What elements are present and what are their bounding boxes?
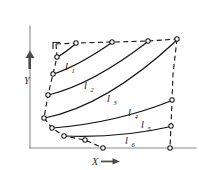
node-marker [170, 98, 174, 102]
figure-container: Y X [0, 0, 199, 170]
node-marker [42, 116, 46, 120]
node-marker [74, 41, 78, 45]
node-marker [146, 39, 150, 43]
curve-label-l6: l 6 [125, 135, 136, 148]
boundary-right-edge [170, 39, 177, 148]
curve-l1 [58, 44, 77, 58]
curve-label-l2: l 2 [84, 80, 95, 93]
x-axis-label: X [91, 156, 99, 167]
node-marker [55, 55, 59, 59]
node-marker [62, 134, 66, 138]
svg-text:l: l [128, 107, 131, 118]
curve-labels-group: l 1 l 2 l 3 l 4 l 5 l 6 [65, 61, 152, 148]
node-marker [175, 37, 179, 41]
svg-text:l: l [84, 80, 87, 91]
svg-text:6: 6 [132, 141, 136, 148]
x-axis-arrow-icon [101, 158, 120, 164]
curve-l3 [49, 42, 149, 96]
svg-text:l: l [141, 119, 144, 130]
curve-label-l5: l 5 [141, 119, 152, 132]
svg-text:4: 4 [135, 113, 139, 120]
node-marker [50, 126, 54, 130]
curve-family-diagram: Y X [0, 0, 199, 170]
y-axis-arrow-icon [26, 51, 35, 70]
node-marker [168, 146, 172, 150]
node-marker [169, 124, 173, 128]
svg-text:l: l [125, 135, 128, 146]
node-marker [83, 138, 87, 142]
node-marker [110, 40, 114, 44]
svg-text:1: 1 [72, 67, 75, 74]
svg-text:2: 2 [91, 86, 95, 93]
curve-label-l3: l 3 [107, 93, 118, 106]
curve-l5 [53, 101, 173, 129]
node-marker [101, 146, 105, 150]
svg-text:3: 3 [113, 99, 118, 106]
curve-l6 [65, 127, 172, 137]
svg-text:l: l [65, 61, 68, 72]
region-boundary-dashed [44, 39, 177, 148]
node-marker [46, 93, 50, 97]
node-marker [51, 72, 55, 76]
svg-text:l: l [107, 93, 110, 104]
curve-l2 [54, 43, 113, 75]
curve-family-group [45, 41, 177, 137]
